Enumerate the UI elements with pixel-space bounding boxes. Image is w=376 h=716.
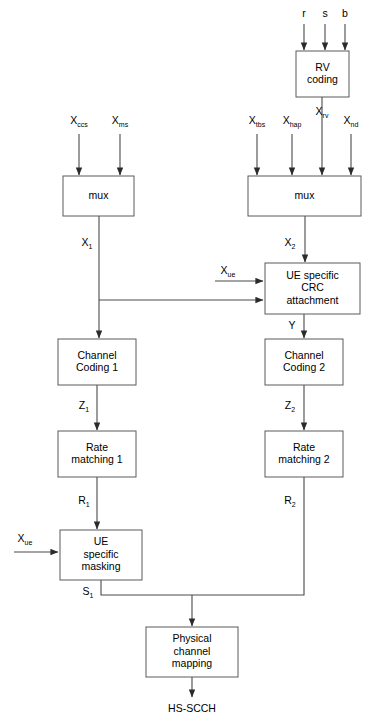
block-label-mux_left: mux <box>89 189 110 201</box>
label-base-sig_s1: S <box>83 585 90 597</box>
signal-label-sig_z2: Z2 <box>285 399 295 413</box>
label-sub-in_xccs: ccs <box>77 121 88 128</box>
connector-group-mux-left-inputs <box>79 134 120 175</box>
signal-label-sig_r2: R2 <box>284 494 296 508</box>
label-base-in_xhap: X <box>283 114 290 126</box>
label-base-in_r: r <box>302 7 306 19</box>
input-label-in_xue_2: Xue <box>18 532 33 546</box>
label-base-in_s: s <box>322 7 327 19</box>
input-label-in_xnd: Xnd <box>344 114 359 128</box>
block-mux_left: mux <box>63 176 134 216</box>
label-base-in_xccs: X <box>70 114 77 126</box>
block-label-masking: UE <box>94 535 109 547</box>
label-sub-in_xue_2: ue <box>25 539 33 546</box>
label-sub-sig_z1: 1 <box>85 406 89 413</box>
block-label-phymap: mapping <box>172 657 212 669</box>
connector-group-rv-inputs <box>304 24 345 50</box>
label-sub-sig_x1: 1 <box>89 243 93 250</box>
block-label-rv_coding: RV <box>315 61 329 73</box>
label-sub-in_xrv: rv <box>323 112 329 119</box>
input-label-in_s: s <box>322 7 327 19</box>
label-sub-sig_r2: 2 <box>292 501 296 508</box>
block-label-ratematch2: matching 2 <box>278 453 330 465</box>
block-label-crc: attachment <box>287 294 339 306</box>
block-label-ratematch1: matching 1 <box>71 453 123 465</box>
label-sub-sig_x2: 2 <box>292 243 296 250</box>
input-label-in_xtbs: Xtbs <box>249 114 266 128</box>
signal-label-sig_z1: Z1 <box>79 399 89 413</box>
flow-diagram-canvas: RVcodingmuxmuxUE specificCRCattachmentCh… <box>0 0 376 716</box>
block-label-crc: CRC <box>301 281 324 293</box>
connector-group-mux-right-inputs <box>257 134 351 175</box>
signal-label-sig_s1: S1 <box>83 585 94 599</box>
connector-group-xue-inputs <box>14 281 263 552</box>
output-terminal-label: HS-SCCH <box>168 702 216 714</box>
block-label-ratematch1: Rate <box>86 441 108 453</box>
block-label-chcode2: Coding 2 <box>283 361 325 373</box>
label-base-in_xue_2: X <box>18 532 25 544</box>
label-sub-in_xnd: nd <box>351 121 359 128</box>
path-masking-to-merge <box>101 580 192 595</box>
block-label-mux_right: mux <box>295 189 316 201</box>
label-sub-in_xtbs: tbs <box>256 121 266 128</box>
signal-label-sig_y: Y <box>288 319 295 331</box>
block-ratematch2: Ratematching 2 <box>265 431 343 477</box>
label-base-in_xtbs: X <box>249 114 256 126</box>
hs-scch-coding-chain-diagram: RVcodingmuxmuxUE specificCRCattachmentCh… <box>0 0 376 716</box>
input-label-in_xue_1: Xue <box>221 264 236 278</box>
blocks-layer: RVcodingmuxmuxUE specificCRCattachmentCh… <box>58 51 361 677</box>
input-label-in_xhap: Xhap <box>283 114 302 129</box>
block-label-masking: masking <box>81 560 120 572</box>
block-label-phymap: Physical <box>172 632 211 644</box>
label-sub-sig_r1: 1 <box>86 501 90 508</box>
block-masking: UEspecificmasking <box>60 530 142 580</box>
input-label-in_b: b <box>342 7 348 19</box>
label-sub-in_xue_1: ue <box>228 271 236 278</box>
label-base-in_b: b <box>342 7 348 19</box>
input-label-in_r: r <box>302 7 306 19</box>
block-phymap: Physicalchannelmapping <box>146 627 238 677</box>
label-base-sig_y: Y <box>288 319 295 331</box>
label-base-in_xrv: X <box>316 105 323 117</box>
block-label-chcode1: Channel <box>77 349 116 361</box>
label-sub-in_xhap: hap <box>290 121 302 129</box>
input-label-in_xrv: Xrv <box>316 105 329 119</box>
input-label-in_xccs: Xccs <box>70 114 88 128</box>
signal-label-sig_r1: R1 <box>78 494 90 508</box>
label-sub-sig_z2: 2 <box>291 406 295 413</box>
label-base-sig_x2: X <box>285 236 292 248</box>
block-label-chcode1: Coding 1 <box>76 361 118 373</box>
input-label-in_xms: Xms <box>112 114 129 128</box>
block-label-ratematch2: Rate <box>293 441 315 453</box>
label-base-sig_x1: X <box>82 236 89 248</box>
block-rv_coding: RVcoding <box>296 51 349 97</box>
block-crc: UE specificCRCattachment <box>265 263 360 314</box>
signal-label-sig_x2: X2 <box>285 236 296 250</box>
label-sub-in_xms: ms <box>119 121 129 128</box>
label-base-in_xue_1: X <box>221 264 228 276</box>
block-mux_right: mux <box>248 176 361 216</box>
block-label-rv_coding: coding <box>307 73 338 85</box>
block-label-chcode2: Channel <box>284 349 323 361</box>
block-label-phymap: channel <box>174 645 211 657</box>
label-sub-sig_s1: 1 <box>90 592 94 599</box>
block-label-crc: UE specific <box>286 269 339 281</box>
block-label-masking: specific <box>83 548 118 560</box>
block-chcode2: ChannelCoding 2 <box>265 339 343 385</box>
block-chcode1: ChannelCoding 1 <box>58 339 136 385</box>
label-base-in_xms: X <box>112 114 119 126</box>
signal-label-sig_x1: X1 <box>82 236 93 250</box>
block-ratematch1: Ratematching 1 <box>58 431 136 477</box>
label-base-in_xnd: X <box>344 114 351 126</box>
